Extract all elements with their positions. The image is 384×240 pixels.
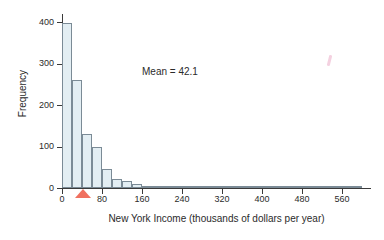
histogram-bar (242, 186, 252, 188)
histogram-bar (82, 134, 92, 188)
x-tick-label: 400 (242, 194, 282, 204)
y-tick-label: 0 (49, 184, 54, 193)
x-tick-label: 320 (202, 194, 242, 204)
histogram-bar (132, 184, 142, 188)
y-tick-labels: 0100200300400 (0, 0, 54, 240)
histogram-bar (282, 186, 292, 188)
histogram-bar (252, 186, 262, 188)
x-tick-label: 160 (122, 194, 162, 204)
y-tick-label: 400 (39, 18, 54, 27)
histogram-bar (182, 186, 192, 188)
y-tick-label: 200 (39, 101, 54, 110)
histogram-bar (262, 186, 272, 188)
histogram-bar (272, 186, 282, 188)
histogram-bar (142, 186, 152, 188)
histogram-bar (222, 186, 232, 188)
histogram-figure: Frequency 0100200300400 0801602403204004… (0, 0, 384, 240)
histogram-bar (162, 186, 172, 188)
histogram-bar (152, 186, 162, 188)
mean-marker-triangle-icon (75, 189, 91, 198)
x-tick-label: 560 (322, 194, 362, 204)
histogram-bar (322, 186, 332, 188)
histogram-bar (212, 186, 222, 188)
y-tick-label: 100 (39, 142, 54, 151)
histogram-bar (352, 186, 362, 188)
histogram-bar (292, 186, 302, 188)
histogram-bar (202, 186, 212, 188)
histogram-bar (302, 186, 312, 188)
histogram-bar (342, 186, 352, 188)
histogram-bar (332, 186, 342, 188)
x-axis-line (62, 188, 371, 189)
histogram-bar (112, 179, 122, 188)
histogram-bar (232, 186, 242, 188)
histogram-bar (62, 23, 72, 188)
x-tick-label: 480 (282, 194, 322, 204)
histogram-bar (192, 186, 202, 188)
histogram-bar (72, 80, 82, 188)
histogram-bar (172, 186, 182, 188)
histogram-bar (312, 186, 322, 188)
x-axis-title: New York Income (thousands of dollars pe… (62, 213, 371, 224)
histogram-bar (92, 147, 102, 188)
mean-annotation-label: Mean = 42.1 (142, 66, 198, 77)
x-tick-label: 240 (162, 194, 202, 204)
y-tick-label: 300 (39, 59, 54, 68)
histogram-bar (122, 181, 132, 188)
histogram-bar (102, 169, 112, 188)
plot-area (62, 22, 370, 188)
